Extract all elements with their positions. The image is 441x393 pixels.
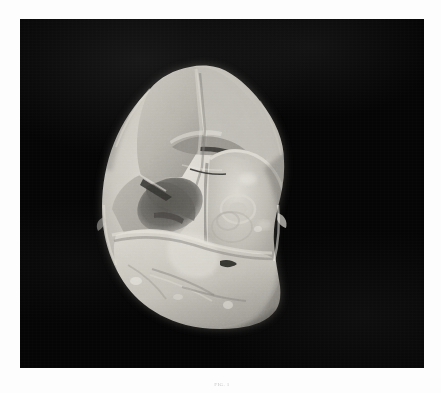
plate-page: FIG. 1 bbox=[0, 0, 441, 393]
stone-mottle bbox=[87, 54, 302, 344]
artifact-body bbox=[87, 54, 302, 344]
artifact-container bbox=[20, 19, 424, 368]
photographic-plate bbox=[20, 19, 424, 368]
flint-handaxe-illustration bbox=[20, 19, 424, 368]
plate-caption: FIG. 1 bbox=[20, 372, 424, 390]
figure-label: FIG. 1 bbox=[214, 381, 229, 388]
